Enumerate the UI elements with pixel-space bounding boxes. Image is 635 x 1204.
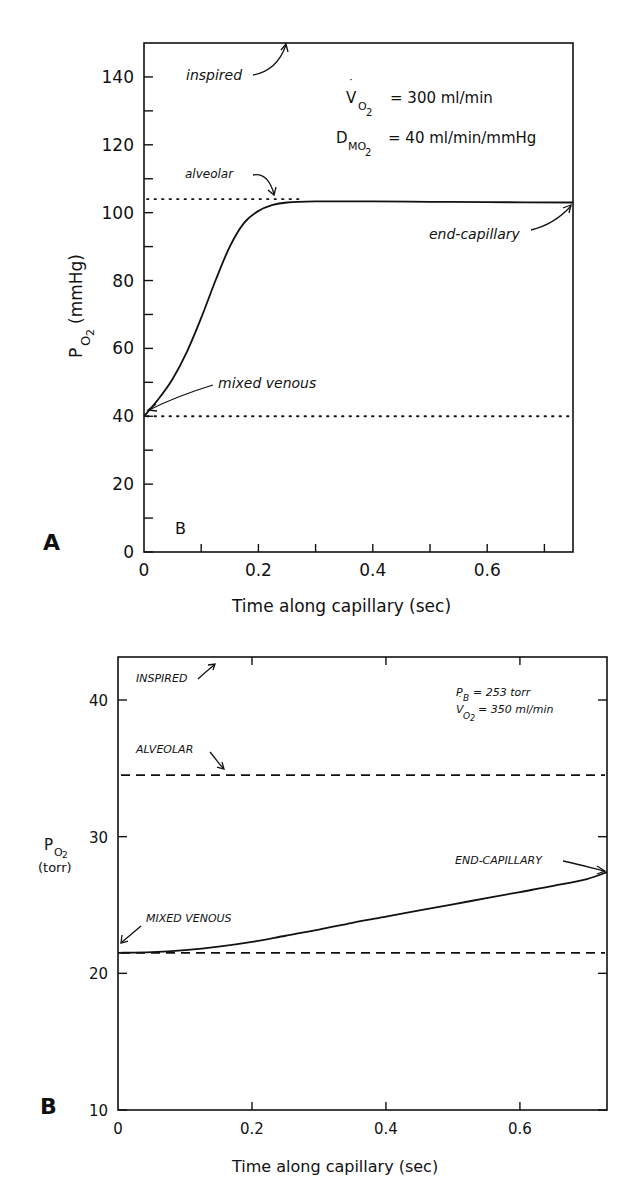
annotation-endcap-a: end-capillary <box>429 226 521 242</box>
eq-dmo2-sub2: 2 <box>365 147 371 158</box>
ylabel-sub2-b: 2 <box>62 850 68 860</box>
chart-panel-b: 1020304000.20.40.6 INSPIRED ALVEOLAR END… <box>38 657 607 1176</box>
arrow-inspired-b <box>198 665 214 679</box>
plot-frame-b <box>118 657 607 1110</box>
annotation-inspired-a: inspired <box>186 67 242 83</box>
x-tick-label: 0.4 <box>374 1120 398 1138</box>
arrow-alveolar-b <box>210 752 223 768</box>
eq-dmo2-sub: MO <box>348 140 366 153</box>
x-tick-label: 0.2 <box>240 1120 264 1138</box>
figure: 02040608010012014000.20.40.6 inspired al… <box>0 0 635 1204</box>
axis-ticks-a <box>144 77 544 552</box>
equation-vo2-b: ˙ V O 2 = 350 ml/min <box>456 695 553 723</box>
y-tick-label: 100 <box>102 203 134 223</box>
x-tick-label: 0.2 <box>245 560 272 580</box>
inset-letter-b: B <box>175 519 186 538</box>
x-tick-label: 0.6 <box>508 1120 532 1138</box>
y-axis-label-a: P O 2 (mmHg) <box>66 254 97 358</box>
ylabel-unit-b: (torr) <box>38 860 72 875</box>
eq-pb-sub: B <box>463 693 469 703</box>
x-tick-label: 0 <box>113 1120 123 1138</box>
chart-panel-a: 02040608010012014000.20.40.6 inspired al… <box>43 43 573 616</box>
arrow-head-endcap-a <box>563 205 571 213</box>
y-tick-label: 30 <box>89 829 108 847</box>
annotation-endcap-b: END-CAPILLARY <box>455 854 543 867</box>
y-tick-label: 0 <box>123 542 134 562</box>
eq-vo2-sub2: 2 <box>366 107 372 118</box>
annotation-inspired-b: INSPIRED <box>136 672 187 685</box>
x-tick-label: 0.6 <box>474 560 501 580</box>
arrow-mixed-b <box>122 926 141 942</box>
panel-label-a: A <box>43 530 60 555</box>
y-tick-label: 120 <box>102 135 134 155</box>
y-tick-label: 20 <box>89 965 108 983</box>
ylabel-sub-a: O <box>78 336 93 346</box>
annotation-alveolar-a: alveolar <box>185 167 234 181</box>
annotation-alveolar-b: ALVEOLAR <box>135 743 193 756</box>
eq-vo2-dot: ˙ <box>348 77 354 91</box>
arrow-alveolar-a <box>253 175 274 194</box>
x-tick-label: 0.4 <box>359 560 386 580</box>
ylabel-main-b: P <box>44 836 53 854</box>
x-axis-label-a: Time along capillary (sec) <box>231 596 451 616</box>
y-tick-label: 40 <box>112 406 134 426</box>
eq-dmo2-main: D <box>336 129 348 147</box>
y-tick-label: 10 <box>89 1102 108 1120</box>
eq-vo2-rest: = 300 ml/min <box>390 89 493 107</box>
ylabel-sub2-a: 2 <box>84 329 97 336</box>
ylabel-main-a: P <box>66 348 86 358</box>
axis-ticks-b <box>118 657 607 1110</box>
eq-vo2-main: V <box>346 89 357 107</box>
eq-vo2b-rest: = 350 ml/min <box>478 703 553 716</box>
equation-vo2-a: V ˙ O 2 = 300 ml/min <box>346 77 493 118</box>
y-tick-label: 60 <box>112 338 134 358</box>
arrow-endcap-a <box>531 206 571 230</box>
x-tick-label: 0 <box>139 560 150 580</box>
eq-dmo2-rest: = 40 ml/min/mmHg <box>388 129 536 147</box>
y-tick-label: 20 <box>112 474 134 494</box>
panel-label-b: B <box>40 1094 57 1119</box>
x-axis-label-b: Time along capillary (sec) <box>231 1157 438 1176</box>
y-tick-label: 140 <box>102 67 134 87</box>
equation-pb-b: P B = 253 torr <box>456 686 532 703</box>
y-tick-label: 40 <box>89 692 108 710</box>
eq-vo2b-sub2: 2 <box>470 714 475 723</box>
eq-pb-rest: = 253 torr <box>473 686 532 699</box>
y-tick-label: 80 <box>112 271 134 291</box>
annotation-mixed-a: mixed venous <box>218 375 316 391</box>
annotation-mixed-b: MIXED VENOUS <box>146 912 232 925</box>
ylabel-unit-a: (mmHg) <box>66 254 86 324</box>
equation-dmo2-a: D MO 2 = 40 ml/min/mmHg <box>336 129 536 158</box>
y-axis-label-b: P O 2 (torr) <box>38 836 72 875</box>
